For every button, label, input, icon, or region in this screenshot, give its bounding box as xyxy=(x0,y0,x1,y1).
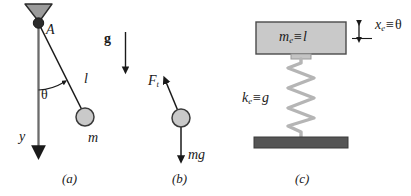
figure-vector-layer xyxy=(0,0,411,196)
mass-equivalence-sign: ≡ xyxy=(293,29,303,44)
tension-force-label: Ft xyxy=(148,74,159,89)
free-body-mass xyxy=(172,109,190,127)
stiffness-equivalence-sign: ≡ xyxy=(252,90,262,105)
physics-figure: A θ l m y g (a) Ft mg (b) me≡l ke≡g xe≡θ… xyxy=(0,0,411,196)
angle-label-theta: θ xyxy=(41,88,48,102)
stiffness-equivalent-value: g xyxy=(262,90,269,105)
pendulum-group xyxy=(25,4,126,148)
pendulum-bob xyxy=(76,108,94,126)
displacement-equivalence-sign: ≡ xyxy=(385,17,395,32)
pivot-label-A: A xyxy=(46,23,55,37)
weight-label-mg: mg xyxy=(188,148,205,162)
tension-force-vector xyxy=(166,82,178,111)
axis-label-y: y xyxy=(19,130,25,144)
displacement-equivalence-label: xe≡θ xyxy=(375,18,402,33)
panel-label-b: (b) xyxy=(172,172,187,185)
panel-label-c: (c) xyxy=(295,172,309,185)
length-label-l: l xyxy=(84,72,88,86)
displacement-equivalent-value: θ xyxy=(395,17,402,32)
mass-label-m: m xyxy=(88,131,98,145)
mass-equivalence-label: me≡l xyxy=(279,30,307,45)
mass-spring-group xyxy=(254,21,372,148)
tension-force-subscript: t xyxy=(157,79,159,89)
ground-support-base xyxy=(254,137,348,148)
mass-equivalent-value: l xyxy=(303,29,307,44)
spring-coil-icon xyxy=(288,59,314,137)
pivot-joint-icon xyxy=(33,18,43,28)
tension-force-symbol: F xyxy=(148,73,157,88)
gravity-label-g: g xyxy=(104,32,111,46)
free-body-diagram-group xyxy=(166,82,190,157)
mass-symbol: m xyxy=(279,29,289,44)
stiffness-equivalence-label: ke≡g xyxy=(242,91,269,106)
panel-label-a: (a) xyxy=(62,172,77,185)
